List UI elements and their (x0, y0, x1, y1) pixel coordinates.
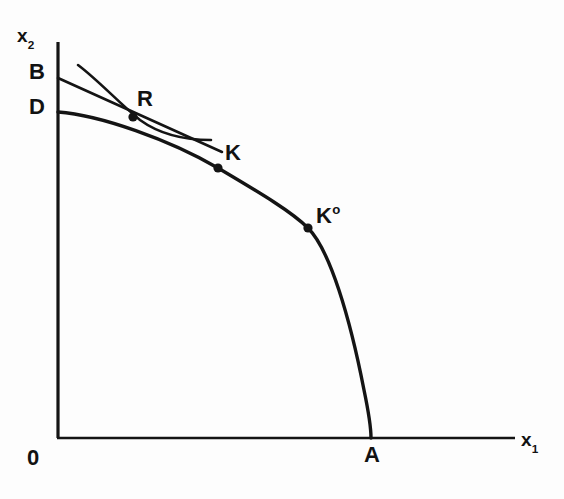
label-d-intercept: D (29, 96, 45, 118)
label-a-intercept: A (364, 444, 380, 466)
label-point-k-zero: Ko (316, 204, 340, 227)
figure-container: x2 x1 0 B D A R K Ko (0, 0, 564, 499)
y-axis-label-subscript: 2 (28, 38, 35, 51)
label-point-r: R (137, 88, 153, 110)
y-axis-label-base: x (17, 25, 28, 46)
label-b-intercept: B (29, 61, 45, 83)
origin-label: 0 (27, 447, 39, 469)
point-marker-r (128, 112, 137, 121)
x-axis-label: x1 (521, 430, 538, 453)
diagram-canvas (0, 0, 564, 499)
label-point-k-zero-superscript: o (332, 202, 340, 217)
label-point-k: K (225, 142, 241, 164)
x-axis-label-base: x (521, 429, 532, 450)
point-marker-k0 (303, 223, 312, 232)
label-point-k-zero-base: K (316, 203, 332, 228)
production-possibility-frontier-curve (58, 112, 371, 438)
point-marker-k (213, 163, 222, 172)
x-axis-label-subscript: 1 (532, 442, 539, 455)
y-axis-label: x2 (17, 26, 34, 49)
